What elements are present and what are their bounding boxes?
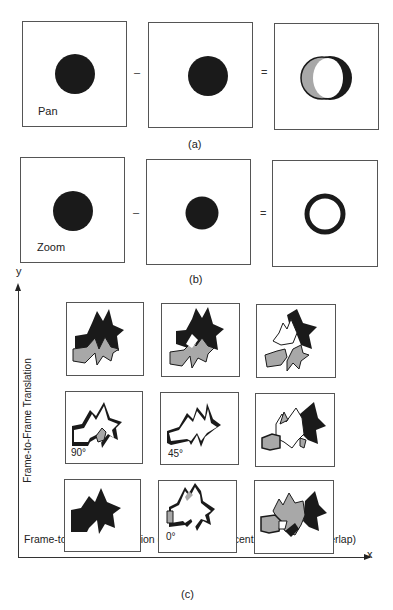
black-disc-icon: [149, 23, 254, 129]
caption-b: (b): [189, 273, 202, 285]
crescent-difference-icon: [275, 24, 380, 131]
overlapping-star-shapes-icon: [65, 480, 142, 553]
black-disc-icon: [147, 160, 252, 266]
pan-difference-frame: [274, 23, 379, 130]
pan-label: Pan: [38, 105, 58, 117]
zoom-frame-1: Zoom: [20, 157, 125, 263]
x-axis-line: [18, 557, 370, 558]
overlapping-star-shapes-icon: [257, 305, 337, 379]
pan-frame-1: Pan: [22, 21, 127, 127]
zoom-difference-frame: [272, 160, 378, 267]
grid-frame-r1c3: [256, 304, 336, 378]
grid-frame-r2c2: 45°: [160, 392, 239, 465]
overlapping-star-shapes-icon: [159, 481, 238, 554]
grid-frame-r1c2: [161, 303, 240, 377]
grid-frame-r2c3: [255, 393, 335, 467]
overlapping-star-shapes-icon: [162, 304, 241, 378]
minus-operator: –: [133, 206, 139, 218]
ring-difference-icon: [273, 161, 379, 268]
angle-label-45: 45°: [168, 448, 183, 459]
overlapping-star-shapes-icon: [256, 394, 336, 468]
zoom-frame-2: [146, 159, 251, 265]
grid-frame-r3c3: [254, 480, 334, 554]
grid-frame-r3c1: [64, 479, 141, 552]
y-axis-label: Frame-to-Frame Translation: [22, 336, 33, 506]
minus-operator: –: [134, 66, 140, 78]
caption-a: (a): [188, 138, 201, 150]
angle-label-0: 0°: [166, 531, 176, 542]
equals-operator: =: [261, 66, 267, 78]
caption-c: (c): [181, 588, 194, 600]
pan-frame-2: [148, 22, 253, 128]
zoom-label: Zoom: [37, 241, 65, 253]
grid-frame-r1c1: [66, 302, 144, 376]
angle-label-90: 90°: [71, 447, 86, 458]
x-axis-letter: x: [367, 548, 373, 560]
overlapping-star-shapes-icon: [67, 303, 145, 377]
overlapping-star-shapes-icon: [255, 481, 335, 555]
grid-frame-r3c2: 0°: [158, 480, 237, 553]
y-axis-letter: y: [16, 265, 22, 277]
equals-operator: =: [260, 207, 266, 219]
y-axis-line: [18, 290, 19, 558]
grid-frame-r2c1: 90°: [65, 391, 143, 464]
